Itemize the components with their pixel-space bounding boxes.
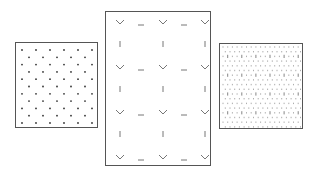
- chevron-lattice-panel: [105, 11, 211, 166]
- dot-lattice-panel: [15, 42, 98, 128]
- stipple-lattice-panel: [219, 43, 303, 129]
- chevron-lattice-graphic: [106, 12, 212, 167]
- dot-lattice-graphic: [16, 43, 99, 129]
- stipple-lattice-graphic: [220, 44, 304, 130]
